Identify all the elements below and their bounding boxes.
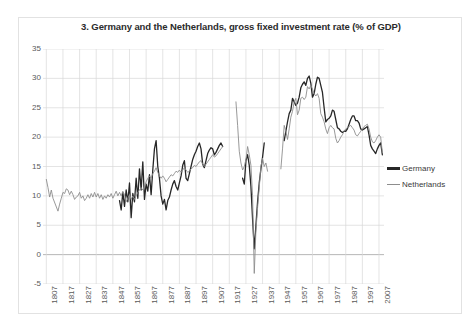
plot-area [43, 49, 384, 284]
x-tick-label: 1867 [150, 286, 159, 304]
y-tick-label: 30 [21, 74, 41, 82]
legend-label-germany: Germany [402, 164, 435, 173]
x-tick-label: 1887 [183, 286, 192, 304]
x-tick-label: 1857 [133, 286, 142, 304]
x-tick-label: 1847 [117, 286, 126, 304]
y-tick-label: 5 [21, 221, 41, 229]
x-tick-label: 1947 [283, 286, 292, 304]
chart-legend: Germany Netherlands [387, 161, 461, 193]
legend-swatch-netherlands-icon [387, 184, 400, 185]
y-tick-label: 20 [21, 133, 41, 141]
y-tick-label: 0 [21, 251, 41, 259]
series-line-germany [120, 76, 383, 249]
y-tick-label: 15 [21, 163, 41, 171]
x-tick-label: 1977 [333, 286, 342, 304]
legend-item-netherlands: Netherlands [387, 177, 461, 192]
x-tick-label: 2007 [383, 286, 392, 304]
x-tick-label: 1917 [233, 286, 242, 304]
x-tick-label: 1807 [50, 286, 59, 304]
y-tick-label: 35 [21, 45, 41, 53]
y-tick-label: -5 [21, 280, 41, 288]
x-tick-label: 1897 [200, 286, 209, 304]
y-axis: 35302520151050-5 [19, 49, 41, 284]
x-tick-label: 1937 [267, 286, 276, 304]
y-tick-label: 10 [21, 192, 41, 200]
x-tick-label: 1907 [217, 286, 226, 304]
x-tick-label: 1927 [250, 286, 259, 304]
x-tick-label: 1877 [167, 286, 176, 304]
chart-plot-svg [43, 49, 384, 284]
x-tick-label: 1817 [67, 286, 76, 304]
legend-item-germany: Germany [387, 161, 461, 176]
chart-title: 3. Germany and the Netherlands, gross fi… [19, 21, 463, 32]
chart-frame: 3. Germany and the Netherlands, gross fi… [18, 17, 462, 314]
x-tick-label: 1957 [300, 286, 309, 304]
x-axis: 1807181718271837184718571867187718871897… [43, 284, 384, 324]
x-tick-label: 1967 [316, 286, 325, 304]
legend-label-netherlands: Netherlands [402, 180, 445, 189]
x-tick-label: 1987 [350, 286, 359, 304]
legend-swatch-germany-icon [387, 167, 400, 170]
x-tick-label: 1997 [366, 286, 375, 304]
y-tick-label: 25 [21, 104, 41, 112]
x-tick-label: 1827 [84, 286, 93, 304]
x-tick-label: 1837 [100, 286, 109, 304]
